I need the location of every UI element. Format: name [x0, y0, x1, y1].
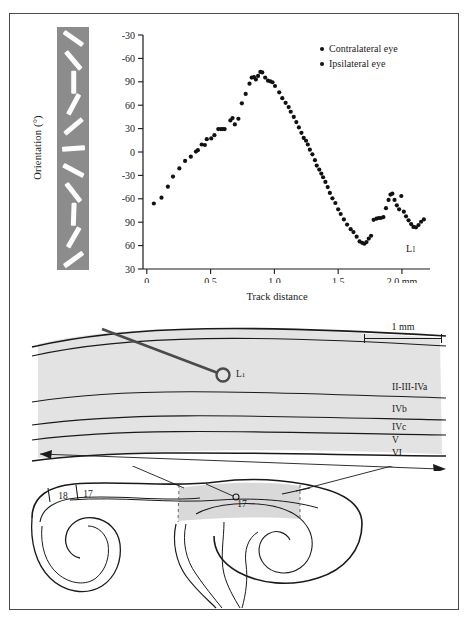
gyrus-right-tail — [242, 532, 258, 608]
data-point — [313, 158, 317, 162]
data-point — [289, 110, 293, 114]
data-point — [196, 148, 200, 152]
data-point — [209, 136, 213, 140]
y-tick-label-9: 60 — [125, 240, 135, 251]
data-point — [270, 80, 274, 84]
data-point — [310, 152, 314, 156]
data-point — [381, 215, 385, 219]
data-point — [390, 192, 394, 196]
y-axis-title: Orientation (°) — [32, 93, 43, 203]
brain-area-label-0: 18 — [58, 491, 68, 501]
data-point — [342, 217, 346, 221]
cortex-layer-label-1: IVb — [392, 404, 407, 414]
legend-marker-contralateral-icon — [320, 47, 324, 51]
data-point — [330, 196, 334, 200]
orientation-bar-6 — [62, 163, 84, 178]
cortex-layer-label-4: VI — [392, 448, 402, 458]
y-tick-label-6: -30 — [122, 170, 135, 181]
cortex-shaded-region — [38, 329, 442, 458]
x-tick-label-0: 0 — [144, 276, 149, 283]
gyrus-right-fold-inner — [222, 522, 240, 608]
data-point — [392, 198, 396, 202]
figure-frame: Orientation (°) -30-609060300-30-6090603… — [9, 13, 459, 610]
data-point — [183, 159, 187, 163]
y-tick-label-10: 30 — [125, 264, 135, 275]
data-point — [395, 203, 399, 207]
data-point — [280, 96, 284, 100]
data-point — [177, 166, 181, 170]
track-end-label: L1 — [406, 243, 416, 254]
data-point — [299, 131, 303, 135]
brain-area-label-1: 17 — [83, 489, 93, 499]
legend-item-ipsilateral: Ipsilateral eye — [320, 56, 398, 71]
cortex-track-end-label: L1 — [236, 369, 245, 379]
data-point — [212, 133, 216, 137]
y-tick-label-2: 90 — [125, 76, 135, 87]
orientation-bar-2 — [71, 71, 76, 94]
orientation-bar-5 — [61, 145, 84, 151]
x-tick-label-4: 2.0 mm — [387, 276, 418, 283]
scale-bar-label: 1 mm — [358, 321, 448, 332]
data-point — [321, 175, 325, 179]
plot-legend: Contralateral eye Ipsilateral eye — [320, 41, 398, 71]
scale-bar-rule — [358, 334, 448, 343]
y-tick-label-1: -60 — [122, 53, 135, 64]
data-point — [351, 230, 355, 234]
data-point — [323, 180, 327, 184]
y-tick-label-8: 90 — [125, 217, 135, 228]
data-point — [223, 127, 227, 131]
data-point — [304, 139, 308, 143]
data-points-group — [152, 70, 426, 246]
x-tick-label-3: 1.5 — [332, 276, 345, 283]
legend-marker-ipsilateral-icon — [320, 62, 324, 66]
cortex-layer-label-0: II-III-IVa — [392, 382, 428, 392]
data-point — [189, 155, 193, 159]
data-point — [260, 70, 264, 74]
cortex-layer-label-3: V — [392, 435, 399, 445]
legend-label-contralateral: Contralateral eye — [329, 43, 398, 54]
y-tick-label-7: -60 — [122, 193, 135, 204]
brain-section-panel: 181717 — [10, 466, 460, 611]
data-point — [404, 214, 408, 218]
data-point — [166, 185, 170, 189]
data-point — [244, 92, 248, 96]
y-tick-label-3: 60 — [125, 100, 135, 111]
data-point — [203, 143, 207, 147]
data-point — [287, 105, 291, 109]
data-point — [205, 137, 209, 141]
data-point — [230, 116, 234, 120]
data-point — [152, 201, 156, 205]
y-tick-label-0: -30 — [122, 31, 135, 41]
legend-item-contralateral: Contralateral eye — [320, 41, 398, 56]
brain-section-svg: 181717 — [10, 466, 460, 611]
orientation-bar-9 — [65, 226, 80, 248]
y-tick-label-4: 30 — [125, 123, 135, 134]
data-point — [399, 194, 403, 198]
orientation-bar-0 — [62, 30, 83, 47]
data-point — [284, 101, 288, 105]
x-axis-title: Track distance — [122, 291, 432, 302]
data-point — [402, 210, 406, 214]
data-point — [339, 212, 343, 216]
data-point — [171, 174, 175, 178]
cortex-layers-panel: II-III-IVaIVbIVcVVI 1 mm L1 — [10, 306, 460, 471]
orientation-bar-1 — [64, 50, 82, 71]
sulcus-left-inner — [42, 526, 109, 583]
orientation-bar-3 — [66, 93, 81, 115]
data-point — [336, 207, 340, 211]
orientation-bar-7 — [64, 182, 82, 203]
data-point — [306, 142, 310, 146]
orientation-bar-strip — [57, 27, 89, 270]
data-point — [233, 122, 237, 126]
data-point — [236, 117, 240, 121]
data-point — [406, 218, 410, 222]
data-point — [308, 148, 312, 152]
orientation-bar-8 — [70, 203, 75, 226]
data-point — [317, 167, 321, 171]
data-point — [384, 206, 388, 210]
orientation-bar-10 — [62, 250, 83, 267]
data-point — [292, 115, 296, 119]
data-point — [345, 222, 349, 226]
data-point — [326, 185, 330, 189]
data-point — [364, 240, 368, 244]
